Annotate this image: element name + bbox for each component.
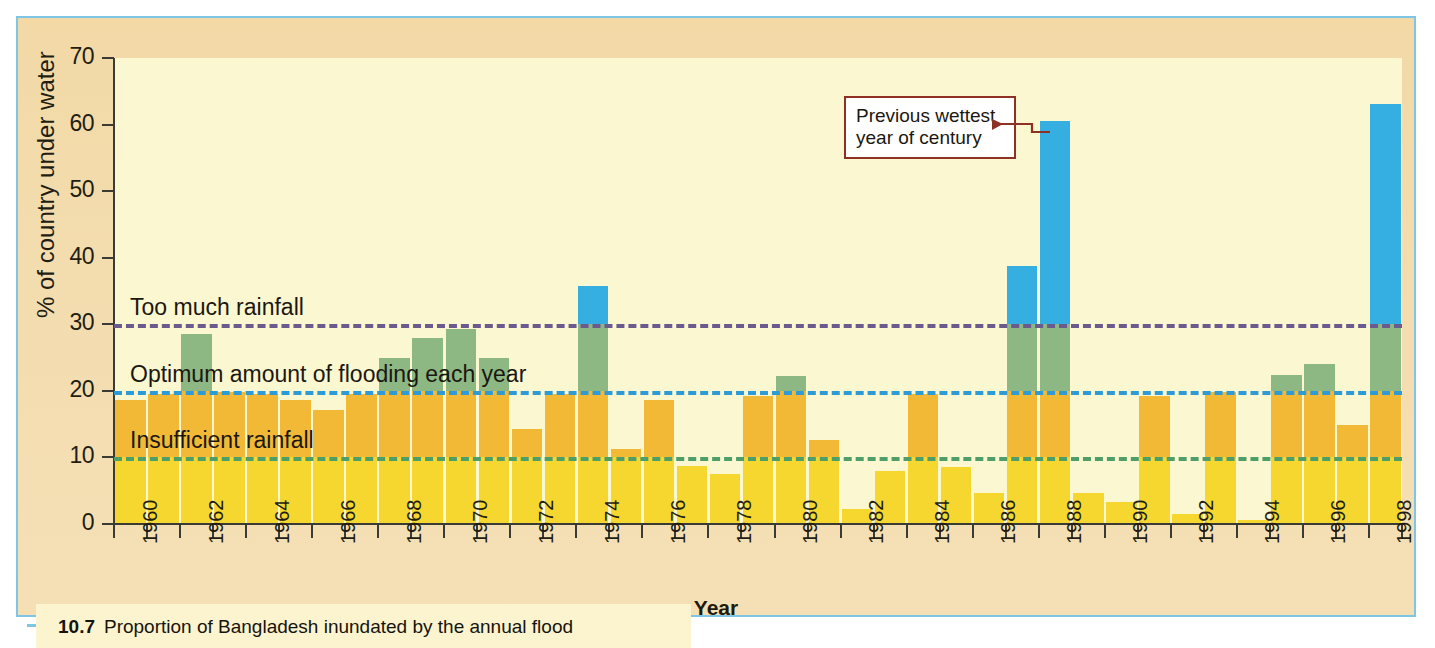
x-axis-tick bbox=[311, 525, 313, 538]
x-axis-tick bbox=[707, 525, 709, 538]
y-axis-tick-label: 0 bbox=[36, 509, 94, 536]
x-axis-tick-label-1988: 1988 bbox=[1063, 500, 1086, 545]
x-axis-tick-label-1966: 1966 bbox=[337, 500, 360, 545]
bar-segment bbox=[908, 394, 939, 457]
bar-segment bbox=[1271, 391, 1302, 458]
bar-1966 bbox=[313, 58, 344, 524]
bar-segment bbox=[1370, 391, 1401, 458]
x-axis-tick bbox=[972, 525, 974, 538]
x-axis-tick bbox=[377, 525, 379, 538]
bar-1969 bbox=[412, 58, 443, 524]
x-axis-tick bbox=[906, 525, 908, 538]
caption-text: Proportion of Bangladesh inundated by th… bbox=[104, 616, 573, 638]
x-axis-tick bbox=[1038, 525, 1040, 538]
x-axis-tick bbox=[1302, 525, 1304, 538]
bar-1980 bbox=[776, 58, 807, 524]
bar-segment bbox=[578, 286, 609, 325]
y-axis-tick-label: 70 bbox=[36, 43, 94, 70]
bar-1995 bbox=[1271, 58, 1302, 524]
annotation-line-1: Previous wettest bbox=[856, 105, 1004, 127]
bar-1992 bbox=[1172, 58, 1203, 524]
bar-1989 bbox=[1073, 58, 1104, 524]
annotation-line-2: year of century bbox=[856, 127, 1004, 149]
y-axis-tick-label: 40 bbox=[36, 243, 94, 270]
bar-segment bbox=[1304, 391, 1335, 458]
bar-segment bbox=[313, 410, 344, 457]
x-axis-tick-label-1990: 1990 bbox=[1129, 500, 1152, 545]
bar-segment bbox=[1040, 121, 1071, 324]
bar-1970 bbox=[446, 58, 477, 524]
bar-segment bbox=[545, 394, 576, 458]
x-axis-tick bbox=[113, 525, 115, 538]
bar-segment bbox=[578, 391, 609, 458]
bar-segment bbox=[1337, 425, 1368, 457]
x-axis-tick bbox=[509, 525, 511, 538]
x-axis-tick-label-1960: 1960 bbox=[139, 500, 162, 545]
x-axis-tick-label-1986: 1986 bbox=[997, 500, 1020, 545]
bar-segment bbox=[743, 396, 774, 457]
y-axis-tick bbox=[102, 390, 114, 392]
bar-segment bbox=[644, 400, 675, 458]
x-axis-tick-label-1962: 1962 bbox=[205, 500, 228, 545]
y-axis-tick-label: 20 bbox=[36, 376, 94, 403]
bar-1976 bbox=[644, 58, 675, 524]
y-axis-tick bbox=[102, 257, 114, 259]
x-axis-tick-label-1968: 1968 bbox=[403, 500, 426, 545]
annotation-pointer-icon bbox=[992, 118, 1052, 148]
y-axis-tick-label: 50 bbox=[36, 176, 94, 203]
bar-segment bbox=[1304, 364, 1335, 391]
bar-1978 bbox=[710, 58, 741, 524]
y-axis-tick-label: 10 bbox=[36, 442, 94, 469]
figure-caption: 10.7 Proportion of Bangladesh inundated … bbox=[36, 604, 691, 648]
bar-1979 bbox=[743, 58, 774, 524]
x-axis-tick bbox=[774, 525, 776, 538]
x-axis-tick-label-1976: 1976 bbox=[667, 500, 690, 545]
x-axis-tick bbox=[641, 525, 643, 538]
x-axis-tick bbox=[840, 525, 842, 538]
x-axis-tick bbox=[575, 525, 577, 538]
y-axis-tick-label: 60 bbox=[36, 110, 94, 137]
bar-1981 bbox=[809, 58, 840, 524]
bar-1990 bbox=[1106, 58, 1137, 524]
x-axis-tick-label-1998: 1998 bbox=[1393, 500, 1416, 545]
x-axis-tick-label-1996: 1996 bbox=[1327, 500, 1350, 545]
x-axis-tick-label-1974: 1974 bbox=[601, 500, 624, 545]
bar-1977 bbox=[677, 58, 708, 524]
bar-segment bbox=[379, 391, 410, 458]
bar-1997 bbox=[1337, 58, 1368, 524]
bar-segment bbox=[1040, 391, 1071, 458]
x-axis-tick-label-1982: 1982 bbox=[865, 500, 888, 545]
bar-1993 bbox=[1205, 58, 1236, 524]
x-axis-tick-label-1978: 1978 bbox=[733, 500, 756, 545]
bar-segment bbox=[1370, 104, 1401, 324]
threshold-label-10: Insufficient rainfall bbox=[130, 427, 314, 454]
y-axis-tick bbox=[102, 57, 114, 59]
bar-segment bbox=[578, 324, 609, 391]
x-axis-tick bbox=[1170, 525, 1172, 538]
threshold-label-20: Optimum amount of flooding each year bbox=[130, 361, 526, 388]
bar-segment bbox=[412, 391, 443, 458]
bar-1967 bbox=[346, 58, 377, 524]
x-axis-tick bbox=[1104, 525, 1106, 538]
bar-1972 bbox=[512, 58, 543, 524]
bar-segment bbox=[1205, 392, 1236, 457]
bar-segment bbox=[1370, 324, 1401, 391]
bar-1973 bbox=[545, 58, 576, 524]
bar-segment bbox=[1040, 324, 1071, 391]
threshold-line-10 bbox=[114, 457, 1402, 461]
y-axis-tick bbox=[102, 456, 114, 458]
x-axis-tick-label-1980: 1980 bbox=[799, 500, 822, 545]
bar-segment bbox=[1271, 375, 1302, 391]
bar-segment bbox=[479, 391, 510, 458]
threshold-line-20 bbox=[114, 391, 1402, 395]
threshold-label-30: Too much rainfall bbox=[130, 294, 304, 321]
bar-1974 bbox=[578, 58, 609, 524]
bar-segment bbox=[611, 449, 642, 457]
x-axis-tick-label-1984: 1984 bbox=[931, 500, 954, 545]
x-axis-tick-label-1972: 1972 bbox=[535, 500, 558, 545]
x-axis-tick-label-1964: 1964 bbox=[271, 500, 294, 545]
figure-root: % of country under water Year Previous w… bbox=[0, 0, 1435, 648]
y-axis-tick bbox=[102, 124, 114, 126]
bar-segment bbox=[1007, 324, 1038, 391]
bar-1975 bbox=[611, 58, 642, 524]
